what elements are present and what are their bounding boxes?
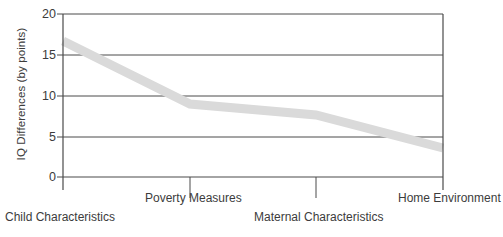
- x-axis-label-poverty-measures: Poverty Measures: [145, 192, 242, 204]
- y-tick-marks: [57, 14, 63, 177]
- gridlines: [63, 14, 443, 137]
- x-axis-label-maternal-characteristics: Maternal Characteristics: [254, 211, 383, 223]
- data-series-line: [63, 41, 443, 148]
- line-chart: IQ Differences (by points) 20 15 10 5 0: [0, 0, 503, 237]
- x-axis-label-home-environment: Home Environment: [398, 192, 501, 204]
- x-axis-label-child-characteristics: Child Characteristics: [5, 211, 115, 223]
